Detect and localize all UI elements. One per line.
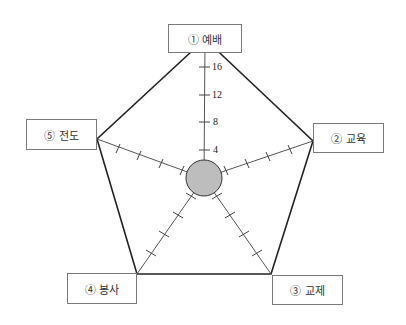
- tick-label-4: 4: [213, 144, 218, 155]
- label-education: ② 교육: [313, 123, 384, 153]
- tick-label-8: 8: [213, 116, 218, 127]
- axis-1: [204, 39, 205, 178]
- tick-label-12: 12: [212, 89, 222, 100]
- axes: [97, 39, 313, 274]
- label-service: ④ 봉사: [67, 273, 137, 304]
- label-fellowship: ③ 교제: [272, 275, 343, 305]
- tick-label-16: 16: [212, 61, 222, 72]
- label-evangelism: ⑤ 전도: [26, 119, 97, 150]
- label-worship: ① 예배: [168, 24, 242, 53]
- center-circle: [186, 160, 222, 196]
